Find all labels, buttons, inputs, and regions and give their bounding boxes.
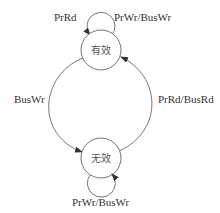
bottom-loop-label: PrWr/BusWr [72,197,129,208]
top-loop-left-label: PrRd [54,12,77,23]
state-valid-label: 有效 [91,46,111,56]
state-diagram: 有效 无效 PrRd PrWr/BusWr BusWr PrRd/BusRd P… [0,0,220,213]
top-loop-right-label: PrWr/BusWr [114,12,171,23]
left-arc-label: BusWr [14,94,45,105]
edge-invalid-to-valid [119,57,152,151]
right-arc-label: PrRd/BusRd [158,94,214,105]
state-invalid-label: 无效 [91,154,111,164]
diagram-graphics [0,0,220,213]
edge-valid-to-invalid [49,58,83,152]
